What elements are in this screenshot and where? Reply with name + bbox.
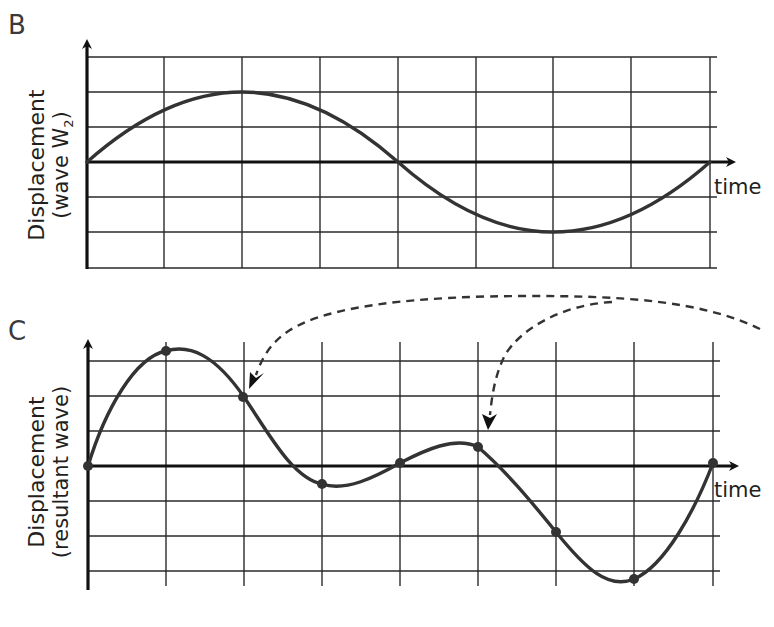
panel-c: C Displacement (resultant wave) xyxy=(8,296,761,590)
panel-b-y-label: Displacement xyxy=(24,89,49,241)
dashed-arrow-to-point-5 xyxy=(490,302,612,415)
data-point xyxy=(83,461,93,471)
data-point xyxy=(161,346,171,356)
panel-b-y-axis-label: Displacement xyxy=(24,89,49,241)
data-point xyxy=(395,458,405,468)
wave-diagram: B Displacement (wave W2) time xyxy=(0,0,774,627)
panel-b: B Displacement (wave W2) time xyxy=(8,10,761,269)
panel-b-y-axis-sublabel: (wave W2) xyxy=(49,111,76,219)
panel-c-x-label: time xyxy=(714,478,761,502)
dashed-arrow-to-point-2 xyxy=(256,296,760,375)
arrowhead-icon xyxy=(482,414,497,430)
data-point xyxy=(551,527,561,537)
panel-b-label: B xyxy=(8,10,26,40)
data-point xyxy=(238,392,248,402)
panel-c-label: C xyxy=(8,316,26,346)
data-point xyxy=(629,574,639,584)
data-point xyxy=(317,479,327,489)
panel-c-y-sublabel: (resultant wave) xyxy=(49,386,73,558)
panel-b-y-sublabel: (wave W2) xyxy=(49,111,76,219)
data-point xyxy=(473,442,483,452)
panel-c-y-label: Displacement xyxy=(24,396,49,548)
panel-c-y-axis-sublabel: (resultant wave) xyxy=(49,386,73,558)
panel-c-y-axis-label: Displacement xyxy=(24,396,49,548)
data-point xyxy=(708,458,718,468)
panel-b-x-label: time xyxy=(714,175,761,199)
